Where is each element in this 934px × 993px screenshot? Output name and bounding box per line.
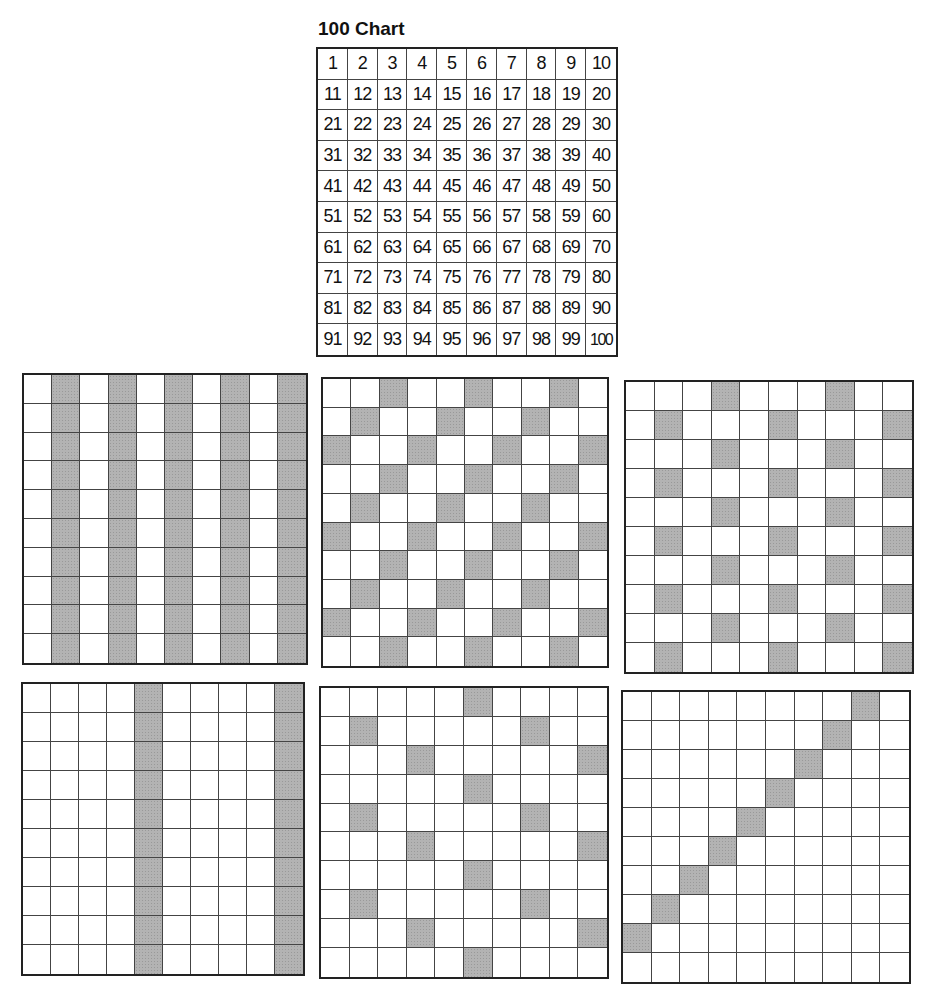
grid-cell: [24, 461, 52, 490]
hundred-chart-cell: 6: [467, 49, 497, 80]
grid-cell: [623, 692, 652, 721]
shaded-grid-multiples-of-3: [321, 377, 609, 668]
grid-cell-shaded: [522, 494, 550, 523]
hundred-chart-cell: 61: [318, 233, 348, 264]
grid-cell-shaded: [579, 436, 607, 465]
grid-cell: [579, 551, 607, 580]
hundred-chart-cell: 16: [467, 80, 497, 111]
grid-cell: [550, 948, 579, 977]
grid-cell: [826, 527, 855, 556]
grid-cell: [883, 556, 912, 585]
grid-cell-shaded: [221, 375, 249, 404]
grid-cell-shaded: [550, 379, 578, 408]
grid-cell-shaded: [351, 580, 379, 609]
grid-cell: [407, 890, 436, 919]
grid-cell: [795, 924, 824, 953]
hundred-chart-cell: 67: [497, 233, 527, 264]
grid-cell: [769, 498, 798, 527]
grid-cell: [137, 605, 165, 634]
grid-cell: [740, 382, 769, 411]
grid-cell: [250, 490, 278, 519]
grid-cell-shaded: [135, 829, 163, 858]
grid-cell-shaded: [135, 800, 163, 829]
grid-cell: [407, 804, 436, 833]
grid-cell: [351, 523, 379, 552]
grid-cell: [321, 717, 350, 746]
grid-cell: [350, 746, 379, 775]
grid-cell: [250, 433, 278, 462]
grid-cell: [769, 382, 798, 411]
hundred-chart-cell: 68: [527, 233, 557, 264]
grid-cell: [107, 916, 135, 945]
grid-cell: [798, 527, 827, 556]
grid-cell: [24, 548, 52, 577]
grid-cell: [883, 382, 912, 411]
grid-cell: [550, 580, 578, 609]
grid-cell-shaded: [52, 634, 80, 663]
grid-cell: [79, 945, 107, 974]
grid-cell: [712, 585, 741, 614]
grid-cell: [23, 829, 51, 858]
grid-cell-shaded: [109, 490, 137, 519]
hundred-chart-cell: 46: [467, 171, 497, 202]
grid-cell: [80, 433, 108, 462]
grid-cell-shaded: [380, 465, 408, 494]
grid-cell-shaded: [407, 746, 436, 775]
grid-cell: [880, 837, 909, 866]
grid-cell-shaded: [221, 577, 249, 606]
grid-cell: [465, 408, 493, 437]
grid-cell-shaded: [278, 461, 306, 490]
grid-cell: [378, 832, 407, 861]
grid-cell: [683, 614, 712, 643]
hundred-chart-cell: 18: [527, 80, 557, 111]
grid-cell-shaded: [883, 411, 912, 440]
grid-cell-shaded: [165, 375, 193, 404]
grid-cell-shaded: [826, 614, 855, 643]
grid-cell: [193, 490, 221, 519]
grid-cell: [79, 771, 107, 800]
grid-cell: [712, 411, 741, 440]
grid-cell: [23, 771, 51, 800]
grid-cell: [766, 721, 795, 750]
grid-cell: [740, 643, 769, 672]
grid-cell: [79, 858, 107, 887]
grid-cell-shaded: [52, 605, 80, 634]
grid-cell: [247, 684, 275, 713]
grid-cell-shaded: [408, 609, 436, 638]
grid-cell: [683, 585, 712, 614]
hundred-chart-cell: 64: [407, 233, 437, 264]
grid-cell: [321, 890, 350, 919]
grid-cell: [826, 643, 855, 672]
grid-cell-shaded: [109, 461, 137, 490]
grid-cell-shaded: [165, 461, 193, 490]
grid-cell: [852, 779, 881, 808]
grid-cell: [250, 548, 278, 577]
hundred-chart-cell: 76: [467, 263, 497, 294]
grid-cell: [408, 551, 436, 580]
grid-cell-shaded: [135, 713, 163, 742]
grid-cell: [823, 808, 852, 837]
hundred-chart-cell: 77: [497, 263, 527, 294]
hundred-chart-cell: 31: [318, 141, 348, 172]
grid-cell-shaded: [465, 379, 493, 408]
grid-cell: [737, 779, 766, 808]
grid-cell-shaded: [655, 411, 684, 440]
grid-cell: [766, 953, 795, 982]
grid-cell: [465, 609, 493, 638]
grid-cell: [321, 804, 350, 833]
grid-cell: [219, 887, 247, 916]
grid-cell: [24, 634, 52, 663]
grid-cell-shaded: [826, 556, 855, 585]
grid-cell: [680, 779, 709, 808]
grid-cell: [191, 916, 219, 945]
hundred-chart-cell: 20: [586, 80, 616, 111]
grid-cell: [163, 945, 191, 974]
grid-cell: [683, 643, 712, 672]
grid-cell: [137, 461, 165, 490]
grid-cell: [350, 688, 379, 717]
grid-cell: [137, 433, 165, 462]
hundred-chart-cell: 87: [497, 294, 527, 325]
hundred-chart-cell: 38: [527, 141, 557, 172]
grid-cell-shaded: [437, 408, 465, 437]
grid-cell: [464, 890, 493, 919]
